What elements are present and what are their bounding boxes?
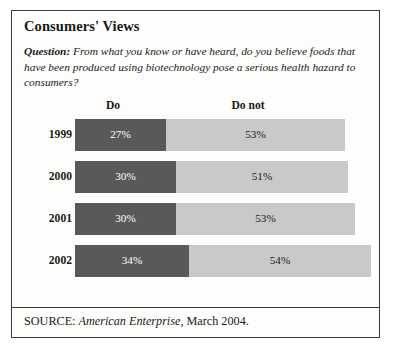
table-row: 1999 27% 53% — [12, 119, 379, 151]
bar-segment-do: 30% — [75, 161, 176, 193]
bar-track: 27% 53% — [75, 119, 345, 151]
bar-segment-do-not: 54% — [189, 245, 371, 277]
year-label: 1999 — [24, 119, 72, 151]
year-label: 2002 — [24, 245, 72, 277]
source-prefix: SOURCE: — [24, 314, 75, 328]
question-label: Question: — [24, 45, 70, 57]
bar-segment-do: 27% — [75, 119, 166, 151]
table-row: 2002 34% 54% — [12, 245, 379, 277]
table-row: 2001 30% 53% — [12, 203, 379, 235]
survey-question: Question: From what you know or have hea… — [24, 44, 368, 91]
bar-track: 30% 53% — [75, 203, 355, 235]
source-date: , March 2004. — [180, 314, 248, 328]
year-label: 2000 — [24, 161, 72, 193]
legend-label-do: Do — [106, 99, 120, 112]
source-publication: American Enterprise — [79, 314, 181, 328]
year-label: 2001 — [24, 203, 72, 235]
figure-title: Consumers' Views — [24, 18, 140, 35]
source-divider — [12, 307, 379, 308]
figure-container: Consumers' Views Question: From what you… — [11, 10, 380, 338]
bar-segment-do-not: 53% — [166, 119, 345, 151]
legend-label-do-not: Do not — [231, 99, 264, 112]
bar-segment-do-not: 53% — [176, 203, 355, 235]
bar-segment-do: 34% — [75, 245, 189, 277]
stacked-bar-chart: Do Do not 1999 27% 53% 2000 30% 51% 2001… — [12, 99, 379, 299]
bar-segment-do-not: 51% — [176, 161, 348, 193]
chart-legend: Do Do not — [12, 99, 379, 117]
table-row: 2000 30% 51% — [12, 161, 379, 193]
source-line: SOURCE: American Enterprise, March 2004. — [24, 314, 249, 329]
bar-segment-do: 30% — [75, 203, 176, 235]
bar-track: 30% 51% — [75, 161, 348, 193]
bar-track: 34% 54% — [75, 245, 371, 277]
question-text: From what you know or have heard, do you… — [24, 45, 355, 88]
